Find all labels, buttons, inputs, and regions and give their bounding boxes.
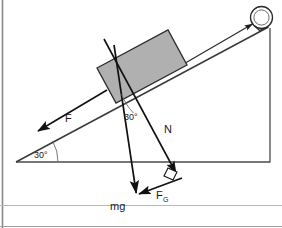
physics-figure: 30° 30° F N mg F G xyxy=(0,0,282,228)
normal-angle-label: 30° xyxy=(124,112,138,122)
incline-angle-arc xyxy=(53,141,58,162)
friction-force-label: F xyxy=(65,112,72,124)
incline-angle-label: 30° xyxy=(34,150,48,160)
fg-label-subscript: G xyxy=(163,196,168,203)
fg-label: F G xyxy=(156,189,168,203)
fg-label-symbol: F xyxy=(156,189,163,201)
friction-vector xyxy=(38,90,107,131)
figure-canvas: 30° 30° F N mg F G xyxy=(0,0,282,228)
block xyxy=(97,30,187,103)
rope xyxy=(175,24,253,70)
weight-label: mg xyxy=(110,200,125,212)
normal-force-label: N xyxy=(164,123,172,135)
pulley xyxy=(251,7,273,31)
